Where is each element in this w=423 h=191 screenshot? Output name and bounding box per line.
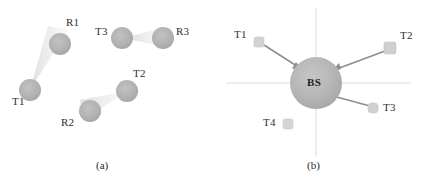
terminal-t4-marker[interactable] — [283, 119, 293, 129]
terminal-t2-marker[interactable] — [384, 42, 396, 54]
node-t3[interactable] — [111, 27, 133, 49]
node-t2[interactable] — [116, 80, 138, 102]
node-label-r1: R1 — [66, 17, 79, 28]
base-station-label: BS — [307, 77, 321, 88]
caption-panel-b: (b) — [307, 159, 320, 171]
node-label-t2: T2 — [133, 68, 146, 79]
panel-b: BS T1 T2 T3 T4 (b) — [211, 0, 423, 191]
caption-panel-a: (a) — [96, 159, 108, 171]
node-r1[interactable] — [49, 33, 71, 55]
node-label-r3: R3 — [176, 26, 189, 37]
link-t2-bs[interactable] — [334, 51, 385, 70]
terminal-t1-marker[interactable] — [254, 37, 264, 47]
terminal-t3-marker[interactable] — [368, 103, 378, 113]
node-label-r2: R2 — [61, 117, 74, 128]
figure-root: T1 R1 T3 R3 R2 T2 (a) — [0, 0, 423, 191]
node-label-t3: T3 — [95, 26, 108, 37]
node-r2[interactable] — [79, 100, 101, 122]
panel-a: T1 R1 T3 R3 R2 T2 (a) — [0, 0, 212, 191]
terminal-label-t4: T4 — [263, 117, 276, 128]
terminal-label-t1: T1 — [234, 29, 247, 40]
node-r3[interactable] — [152, 27, 174, 49]
node-label-t1: T1 — [12, 96, 25, 107]
terminal-label-t3: T3 — [383, 102, 396, 113]
link-t3-bs[interactable] — [333, 96, 370, 106]
terminal-label-t2: T2 — [400, 30, 413, 41]
